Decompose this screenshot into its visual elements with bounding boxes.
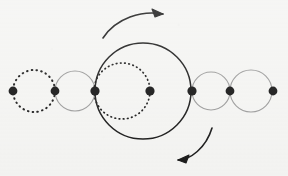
medium-dotted-circle [94, 63, 150, 119]
large-black-circle [95, 43, 191, 139]
circles-diagram [0, 0, 288, 176]
node-dot-3 [90, 86, 99, 95]
dots-layer [9, 86, 278, 95]
small-gray-circle-right-a [192, 72, 230, 110]
bottom-clockwise-arrow [178, 128, 212, 160]
arrows-layer [103, 9, 212, 163]
diagram-canvas [0, 0, 288, 176]
top-clockwise-arrow-head [152, 9, 163, 17]
node-dot-7 [269, 87, 278, 96]
node-dot-6 [226, 87, 235, 96]
small-gray-circle-left [55, 71, 95, 111]
bottom-clockwise-arrow-head [178, 155, 189, 163]
small-gray-circle-right-b [230, 70, 272, 112]
node-dot-4 [145, 86, 154, 95]
top-clockwise-arrow [103, 13, 163, 38]
small-dotted-circle-left [13, 70, 55, 112]
node-dot-2 [51, 87, 60, 96]
node-dot-5 [187, 86, 196, 95]
node-dot-1 [9, 87, 18, 96]
